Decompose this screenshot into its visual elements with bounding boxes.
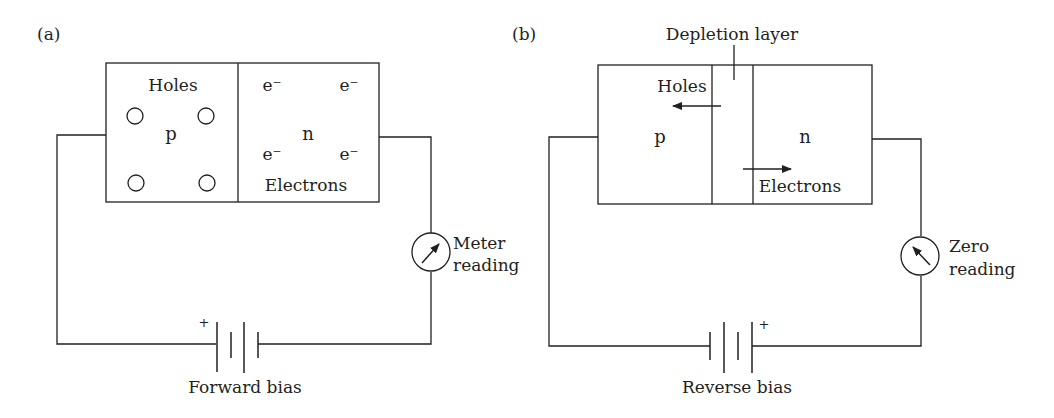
electron-icon: e⁻ <box>262 144 281 164</box>
holes-label: Holes <box>148 75 197 95</box>
hole-icon <box>128 175 144 191</box>
hole-icon <box>127 108 143 124</box>
n-region-label: n <box>799 126 811 147</box>
meter-label: Zero <box>949 236 989 256</box>
panel-b-reverse-bias: (b) Depletion layer Holes p n Electrons … <box>512 24 1016 397</box>
caption-reverse-bias: Reverse bias <box>682 377 792 397</box>
electron-icon: e⁻ <box>339 144 358 164</box>
p-region-label: p <box>654 126 666 147</box>
n-region-label: n <box>302 123 314 144</box>
electrons-label: Electrons <box>265 175 347 195</box>
right-wire-upper <box>872 139 921 236</box>
hole-icon <box>199 175 215 191</box>
left-wire <box>549 137 710 346</box>
right-wire-lower <box>752 276 921 346</box>
meter-label-line2: reading <box>453 255 520 275</box>
left-wire <box>57 135 216 344</box>
plus-sign: + <box>759 317 770 332</box>
ammeter-icon <box>412 233 450 271</box>
ammeter-icon <box>901 237 939 275</box>
electron-icon: e⁻ <box>339 75 358 95</box>
panel-a-forward-bias: (a) Holes p e⁻ e⁻ n e⁻ e⁻ Electrons Mete… <box>37 24 520 397</box>
pn-junction-diagram: (a) Holes p e⁻ e⁻ n e⁻ e⁻ Electrons Mete… <box>0 0 1054 418</box>
panel-a-label: (a) <box>37 24 60 44</box>
plus-sign: + <box>199 315 210 330</box>
battery-icon <box>217 322 258 373</box>
holes-label: Holes <box>657 76 706 96</box>
meter-label: Meter <box>453 233 506 253</box>
meter-label-line2: reading <box>949 259 1016 279</box>
depletion-layer-label: Depletion layer <box>666 24 799 44</box>
battery-icon <box>710 322 752 373</box>
p-region-label: p <box>165 123 177 144</box>
electrons-label: Electrons <box>759 176 841 196</box>
right-wire-lower <box>258 272 431 344</box>
right-wire-upper <box>379 137 431 233</box>
electron-icon: e⁻ <box>262 75 281 95</box>
panel-b-label: (b) <box>512 24 536 44</box>
caption-forward-bias: Forward bias <box>188 377 302 397</box>
hole-icon <box>198 108 214 124</box>
